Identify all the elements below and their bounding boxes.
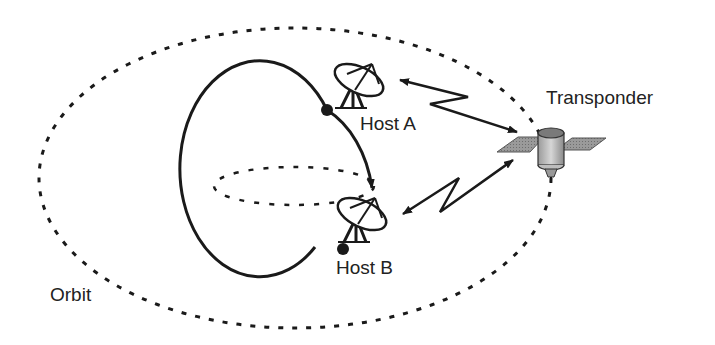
host-b-location-dot (337, 243, 349, 255)
host-b-label: Host B (336, 258, 393, 277)
earth-globe (180, 61, 374, 277)
uplink-b-icon (403, 160, 513, 214)
uplink-a-icon (400, 80, 517, 132)
host-a-dish-icon (330, 57, 388, 108)
host-a-location-dot (321, 104, 333, 116)
host-a-label: Host A (360, 114, 416, 133)
orbit-label: Orbit (50, 285, 91, 304)
satellite-diagram (0, 0, 715, 345)
host-b-dish-icon (333, 191, 391, 242)
transponder-label: Transponder (546, 88, 653, 107)
transponder-satellite-icon (497, 128, 606, 183)
